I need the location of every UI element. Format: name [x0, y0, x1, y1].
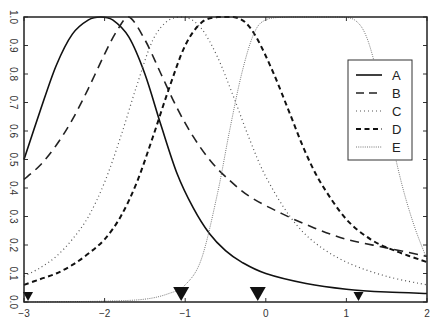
legend-label-b: B	[392, 86, 401, 101]
y-tick-label: 0.8	[8, 67, 19, 81]
y-tick-label: 0.3	[8, 210, 19, 224]
x-tick-label: 2	[424, 308, 430, 319]
x-tick-label: −2	[99, 308, 111, 319]
legend: ABCDE	[348, 60, 412, 160]
legend-label-a: A	[392, 68, 401, 83]
legend-label-d: D	[392, 122, 401, 137]
y-tick-label: 0.7	[8, 96, 19, 110]
legend-label-c: C	[392, 104, 401, 119]
line-chart: 0.00.10.20.30.40.50.60.70.80.91.0 −3−2−1…	[0, 0, 439, 324]
triangle-marker	[353, 292, 363, 301]
triangle-marker	[173, 287, 189, 301]
marker-layer	[23, 287, 363, 301]
y-tick-label: 0.4	[8, 181, 19, 195]
triangle-marker	[250, 287, 266, 301]
y-tick-label: 0.1	[8, 267, 19, 281]
y-tick-label: 0.9	[8, 39, 19, 53]
y-tick-label: 0.6	[8, 124, 19, 138]
x-tick-label: −1	[179, 308, 191, 319]
y-tick-label: 0.5	[8, 153, 19, 167]
x-tick-label: 1	[344, 308, 350, 319]
x-tick-label: −3	[18, 308, 30, 319]
y-tick-label: 0.2	[8, 238, 19, 252]
y-tick-label: 1.0	[8, 10, 19, 24]
x-tick-label: 0	[263, 308, 269, 319]
legend-label-e: E	[392, 140, 401, 155]
